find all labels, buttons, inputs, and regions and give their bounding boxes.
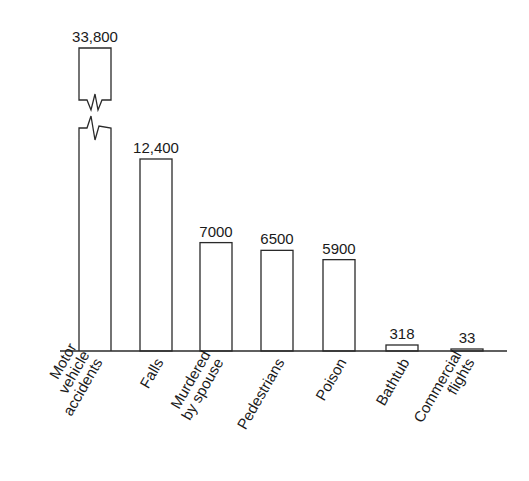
category-label: Poison — [312, 355, 350, 403]
svg-text:Poison: Poison — [312, 355, 350, 403]
category-label: Bathtub — [372, 355, 413, 408]
category-label: Pedestrians — [233, 355, 287, 432]
svg-text:Pedestrians: Pedestrians — [233, 355, 287, 432]
category-label: Murderedby spouse — [165, 348, 227, 423]
bar-lower-segment — [79, 116, 111, 351]
bar-chart: 33,80012,40070006500590031833 Motorvehic… — [0, 0, 529, 481]
value-label: 12,400 — [133, 139, 179, 156]
value-label: 33 — [459, 329, 476, 346]
svg-text:Falls: Falls — [136, 355, 167, 391]
bar — [323, 260, 355, 351]
bar — [140, 159, 172, 351]
value-label: 318 — [389, 325, 414, 342]
value-label: 6500 — [260, 230, 293, 247]
bar-upper-segment — [79, 48, 111, 110]
bar — [200, 243, 232, 351]
bar — [386, 345, 418, 351]
svg-text:Bathtub: Bathtub — [372, 355, 413, 408]
value-label: 5900 — [322, 240, 355, 257]
value-label: 33,800 — [72, 28, 118, 45]
category-label: Falls — [136, 355, 167, 391]
chart-canvas: 33,80012,40070006500590031833 Motorvehic… — [0, 0, 529, 481]
value-label: 7000 — [199, 223, 232, 240]
bar — [261, 250, 293, 351]
category-labels: MotorvehicleaccidentsFallsMurderedby spo… — [33, 340, 477, 433]
bars-group: 33,80012,40070006500590031833 — [72, 28, 483, 351]
category-label: Motorvehicleaccidents — [33, 340, 105, 418]
category-label: Commercialflights — [410, 348, 478, 433]
